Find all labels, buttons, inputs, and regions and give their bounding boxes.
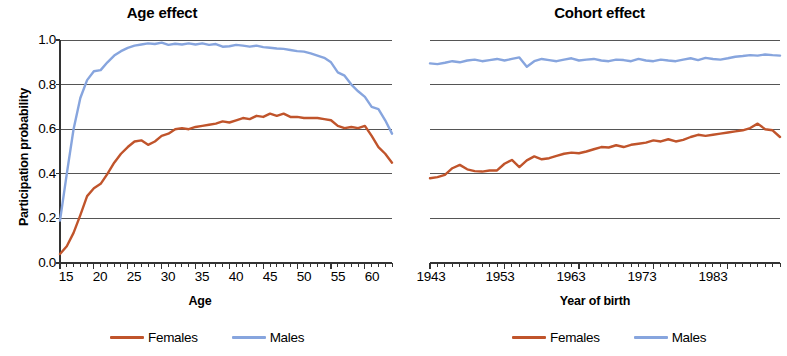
x-axis-title: Year of birth: [510, 294, 680, 308]
x-tick-label-45: 45: [256, 269, 284, 284]
legend-label-males: Males: [270, 330, 305, 345]
legend-entry-females[interactable]: Females: [110, 330, 198, 345]
figure-root: Age effect Participation probability 1.0…: [0, 0, 787, 356]
legend-label-males: Males: [672, 330, 707, 345]
x-tick-label-50: 50: [290, 269, 318, 284]
x-tick-label-40: 40: [222, 269, 250, 284]
x-tick-label-1973: 1973: [617, 269, 667, 284]
legend-entry-males[interactable]: Males: [232, 330, 305, 345]
x-tick-label-55: 55: [324, 269, 352, 284]
legend-label-females: Females: [550, 330, 600, 345]
legend-swatch-males-icon: [232, 336, 266, 339]
x-tick-label-1953: 1953: [475, 269, 525, 284]
x-tick-label-1983: 1983: [688, 269, 738, 284]
x-tick-label-1943: 1943: [406, 269, 456, 284]
legend-entry-males[interactable]: Males: [634, 330, 707, 345]
x-tick-label-15: 15: [52, 269, 80, 284]
chart-panel-cohort-effect: Cohort effect 1943 1953 1963 1973 1983 Y…: [400, 0, 787, 356]
x-tick-label-25: 25: [120, 269, 148, 284]
legend-swatch-females-icon: [110, 336, 144, 339]
legend-cohort-effect: Females Males: [512, 330, 706, 345]
x-tick-label-35: 35: [188, 269, 216, 284]
legend-age-effect: Females Males: [110, 330, 304, 345]
legend-swatch-females-icon: [512, 336, 546, 339]
legend-swatch-males-icon: [634, 336, 668, 339]
chart-panel-age-effect: Age effect Participation probability 1.0…: [0, 0, 400, 356]
x-tick-label-1963: 1963: [546, 269, 596, 284]
x-axis-title: Age: [140, 294, 260, 308]
legend-entry-females[interactable]: Females: [512, 330, 600, 345]
x-tick-label-60: 60: [358, 269, 386, 284]
legend-label-females: Females: [148, 330, 198, 345]
x-tick-label-30: 30: [154, 269, 182, 284]
x-tick-label-20: 20: [86, 269, 114, 284]
